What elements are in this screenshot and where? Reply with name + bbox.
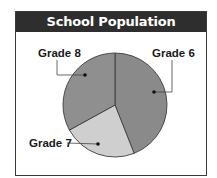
label-grade8: Grade 8 <box>38 47 81 59</box>
pie-slices <box>63 53 167 157</box>
marker-dot-grade7 <box>96 142 100 146</box>
label-grade6: Grade 6 <box>152 47 195 59</box>
marker-dot-grade6 <box>152 90 156 94</box>
pie-chart: Grade 8 Grade 6 Grade 7 <box>0 0 217 178</box>
marker-dot-grade8 <box>83 73 87 77</box>
label-grade7: Grade 7 <box>29 137 72 149</box>
